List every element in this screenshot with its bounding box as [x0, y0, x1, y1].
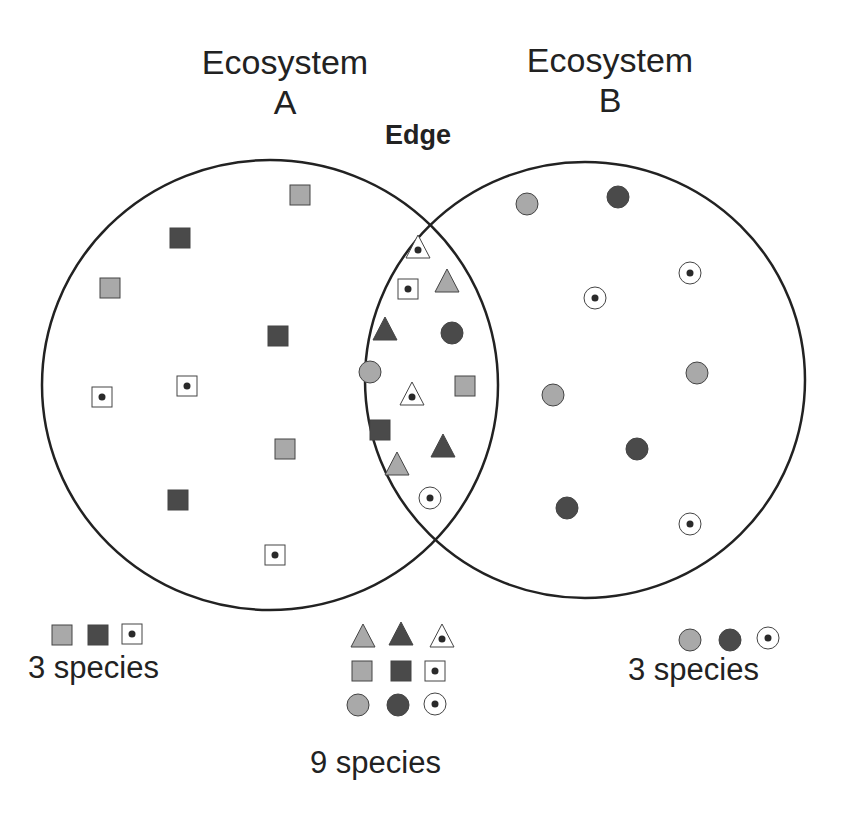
legend-ecosystem-a	[52, 624, 142, 645]
ecosystem-b-count: 3 species	[628, 652, 759, 688]
ecosystem-a-letter: A	[185, 82, 385, 122]
ecosystem-a-circle	[42, 160, 498, 610]
ecosystem-a-count: 3 species	[28, 650, 159, 686]
ecosystem-a-species	[92, 185, 310, 565]
ecosystem-b-species	[516, 186, 708, 535]
ecosystem-a-label: Ecosystem A	[185, 42, 385, 122]
legend-ecosystem-b	[679, 627, 779, 651]
edge-count: 9 species	[310, 745, 441, 781]
ecosystem-a-title: Ecosystem	[185, 42, 385, 82]
ecosystem-b-title: Ecosystem	[510, 40, 710, 80]
legend-edge	[347, 622, 454, 716]
edge-label: Edge	[385, 120, 451, 151]
edge-species	[359, 235, 475, 509]
ecosystem-b-letter: B	[510, 80, 710, 120]
ecosystem-b-label: Ecosystem B	[510, 40, 710, 120]
